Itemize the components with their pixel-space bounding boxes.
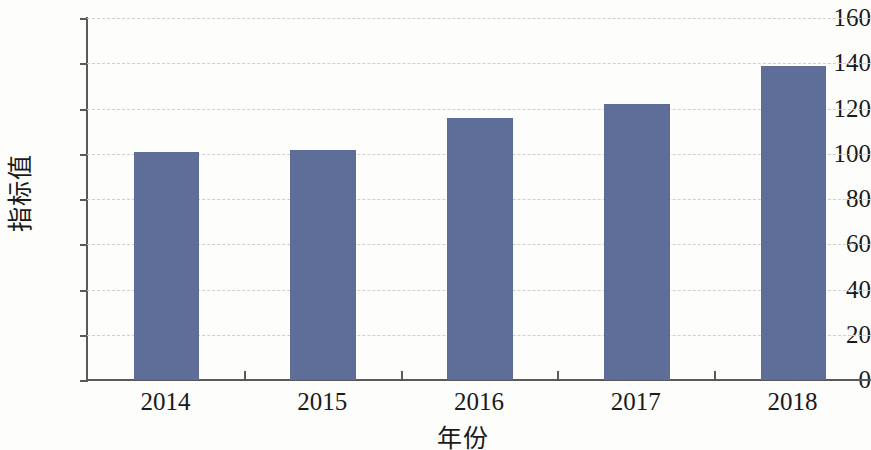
x-axis-tick (557, 371, 559, 380)
x-axis-label-2018: 2018 (714, 388, 871, 416)
x-axis-label-2014: 2014 (87, 388, 244, 416)
bar-2015 (290, 150, 356, 381)
bar-2016 (447, 118, 513, 380)
bar-2017 (604, 104, 670, 380)
bar-2014 (134, 152, 200, 380)
bar-2018 (761, 66, 827, 380)
x-axis-tick (714, 371, 716, 380)
x-axis-label-2016: 2016 (401, 388, 558, 416)
plot-area (87, 18, 871, 380)
y-axis-title: 指标值 (0, 113, 36, 273)
chart-figure: 指标值 020406080100120140160 20142015201620… (0, 0, 871, 450)
x-axis-tick (244, 371, 246, 380)
x-axis-label-2015: 2015 (244, 388, 401, 416)
x-axis-label-2017: 2017 (557, 388, 714, 416)
x-axis-title: 年份 (0, 418, 871, 450)
x-axis-tick (401, 371, 403, 380)
bar-series (87, 18, 871, 380)
x-axis-title-text: 年份 (437, 418, 489, 450)
